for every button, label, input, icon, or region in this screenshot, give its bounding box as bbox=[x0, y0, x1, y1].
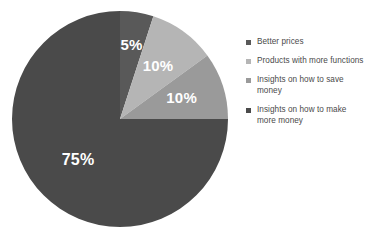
legend-item[interactable]: Better prices bbox=[246, 36, 364, 47]
pie-chart-figure: 5%10%10%75% Better pricesProducts with m… bbox=[0, 0, 368, 239]
legend-item-label: Better prices bbox=[257, 36, 304, 47]
legend-swatch-icon bbox=[246, 108, 251, 113]
legend-item[interactable]: Insights on how to save money bbox=[246, 74, 364, 96]
legend-item-label: Insights on how to make more money bbox=[257, 104, 364, 126]
chart-legend: Better pricesProducts with more function… bbox=[246, 36, 364, 126]
legend-item-label: Insights on how to save money bbox=[257, 74, 364, 96]
legend-swatch-icon bbox=[246, 59, 251, 64]
legend-swatch-icon bbox=[246, 40, 251, 45]
legend-item[interactable]: Insights on how to make more money bbox=[246, 104, 364, 126]
pie-chart-svg: 5%10%10%75% bbox=[12, 11, 228, 227]
legend-item[interactable]: Products with more functions bbox=[246, 55, 364, 66]
pie-slice-value-label: 5% bbox=[120, 36, 142, 53]
legend-swatch-icon bbox=[246, 78, 251, 83]
legend-item-label: Products with more functions bbox=[257, 55, 364, 66]
pie-chart-plot-area: 5%10%10%75% bbox=[12, 11, 228, 227]
pie-slice-value-label: 75% bbox=[62, 151, 95, 168]
pie-slice-value-label: 10% bbox=[143, 57, 174, 74]
pie-slice-value-label: 10% bbox=[166, 89, 197, 106]
